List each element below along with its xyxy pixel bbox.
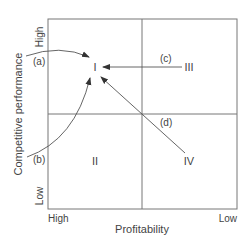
path-label-c: (c) (160, 53, 172, 64)
quadrant-label-II: II (92, 155, 98, 167)
quadrant-label-I: I (93, 61, 96, 73)
x-axis-low-tick: Low (219, 213, 238, 224)
x-axis-label: Profitability (115, 223, 169, 235)
arrow-d (101, 77, 185, 153)
path-label-d: (d) (160, 117, 172, 128)
arrow-b (27, 78, 90, 157)
x-axis-high-tick: High (48, 213, 69, 224)
quadrant-label-III: III (184, 61, 193, 73)
strategy-matrix-diagram: I III II IV (a) (b) (c) (d) High Low Com… (0, 0, 251, 244)
y-axis-label: Competitive performance (12, 53, 24, 176)
path-label-b: (b) (33, 154, 45, 165)
y-axis-high-tick: High (34, 27, 45, 48)
path-label-a: (a) (33, 56, 45, 67)
y-axis-low-tick: Low (34, 186, 45, 205)
quadrant-label-IV: IV (184, 155, 195, 167)
